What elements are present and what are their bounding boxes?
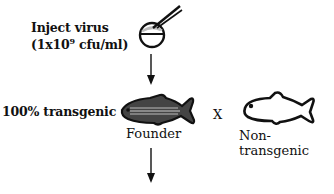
shaded-fish-icon <box>122 95 194 125</box>
egg-injection-icon <box>140 6 182 47</box>
outline-fish-icon <box>244 93 313 124</box>
down-arrow-icon <box>147 148 155 183</box>
down-arrow-icon <box>147 54 155 85</box>
diagram-graphics <box>0 0 334 194</box>
